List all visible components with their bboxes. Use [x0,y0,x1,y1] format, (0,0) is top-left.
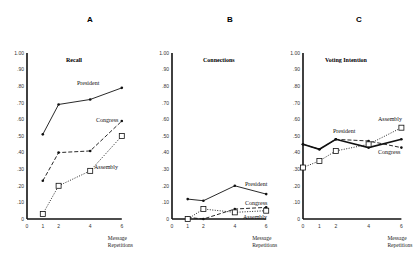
y-tick-label: .50 [293,133,300,139]
y-tick-label: 0 [21,216,24,222]
y-tick-label: 1.00 [159,50,169,56]
series-president: President [42,80,124,136]
square-marker [317,158,322,163]
panel-title: Voting Intention [325,57,368,63]
series-label: Assembly [243,214,267,220]
dot-marker [57,103,60,106]
y-tick-label: .70 [17,100,24,106]
dot-marker [302,143,305,146]
y-tick-label: .90 [162,66,169,72]
series-label: President [245,181,268,187]
y-tick-label: .20 [17,183,24,189]
series-label: President [333,128,356,134]
y-tick-label: .60 [162,116,169,122]
y-tick-label: .10 [293,199,300,205]
y-tick-label: 1.00 [14,50,24,56]
y-tick-label: .80 [293,83,300,89]
y-tick-label: .70 [293,100,300,106]
y-tick-label: 1.00 [290,50,300,56]
y-tick-label: .80 [17,83,24,89]
chart-panel-a: ARecall0.10.20.30.40.50.60.70.80.901.000… [14,15,133,248]
dot-marker [186,198,189,201]
y-tick-label: 0 [166,216,169,222]
dot-marker [121,87,124,90]
square-marker [119,134,124,139]
series-label: Congress [245,200,268,206]
x-tick-label: 4 [89,223,92,229]
square-marker [301,165,306,170]
x-axis-label: Message [387,235,407,241]
y-tick-label: .70 [162,100,169,106]
y-tick-label: .10 [17,199,24,205]
x-tick-label: 6 [400,223,403,229]
y-tick-label: .60 [17,116,24,122]
dot-marker [318,148,321,151]
dot-marker [57,151,60,154]
square-marker [232,210,237,215]
y-tick-label: .40 [162,149,169,155]
series-label: President [77,80,100,86]
series-label: Assembly [94,164,118,170]
x-tick-label: 4 [233,223,236,229]
series-assembly: Assembly [40,134,124,217]
x-tick-label: 4 [367,223,370,229]
x-tick-label: 1 [318,223,321,229]
square-marker [264,208,269,213]
series-president: President [186,181,267,202]
series-congress: Congress [302,138,403,155]
square-marker [366,142,371,147]
y-tick-label: .30 [17,166,24,172]
x-tick-label: 6 [265,223,268,229]
panel-letter: B [227,15,233,24]
square-marker [201,207,206,212]
square-marker [88,168,93,173]
series-label: Congress [96,117,119,123]
x-axis-label: Repetitions [108,242,133,248]
chart-panel-c: CVoting Intention0.10.20.30.40.50.60.70.… [290,15,412,248]
x-tick-label: 0 [302,223,305,229]
dot-marker [265,193,268,196]
y-tick-label: .90 [293,66,300,72]
y-tick-label: .30 [293,166,300,172]
x-tick-label: 6 [120,223,123,229]
y-tick-label: .50 [17,133,24,139]
y-tick-label: .80 [162,83,169,89]
y-tick-label: 0 [297,216,300,222]
x-tick-label: 0 [26,223,29,229]
y-tick-label: .30 [162,166,169,172]
y-tick-label: .20 [293,183,300,189]
dot-marker [202,199,205,202]
series-label: Assembly [378,116,402,122]
x-tick-label: 2 [57,223,60,229]
series-president: President [302,128,403,151]
y-tick-label: .10 [162,199,169,205]
dot-marker [202,218,205,221]
y-tick-label: .60 [293,116,300,122]
dot-marker [335,138,338,141]
dot-marker [234,185,237,188]
dot-marker [121,120,124,123]
y-tick-label: .50 [162,133,169,139]
panel-letter: C [356,15,362,24]
x-axis-label: Repetitions [252,242,277,248]
dot-marker [400,138,403,141]
x-tick-label: 0 [171,223,174,229]
chart-figure: ARecall0.10.20.30.40.50.60.70.80.901.000… [0,0,419,261]
dot-marker [89,150,92,153]
x-tick-label: 1 [186,223,189,229]
dot-marker [42,180,45,183]
x-axis-label: Message [108,235,128,241]
chart-panel-b: BConnections0.10.20.30.40.50.60.70.80.90… [159,15,277,248]
dot-marker [89,98,92,101]
y-tick-label: .20 [162,183,169,189]
x-axis-label: Repetitions [387,242,412,248]
y-tick-label: .40 [17,149,24,155]
x-tick-label: 2 [202,223,205,229]
x-tick-label: 1 [41,223,44,229]
panel-title: Connections [203,57,235,63]
series-label: Congress [378,149,401,155]
square-marker [399,125,404,130]
panel-title: Recall [66,57,82,63]
y-tick-label: .90 [17,66,24,72]
square-marker [56,183,61,188]
